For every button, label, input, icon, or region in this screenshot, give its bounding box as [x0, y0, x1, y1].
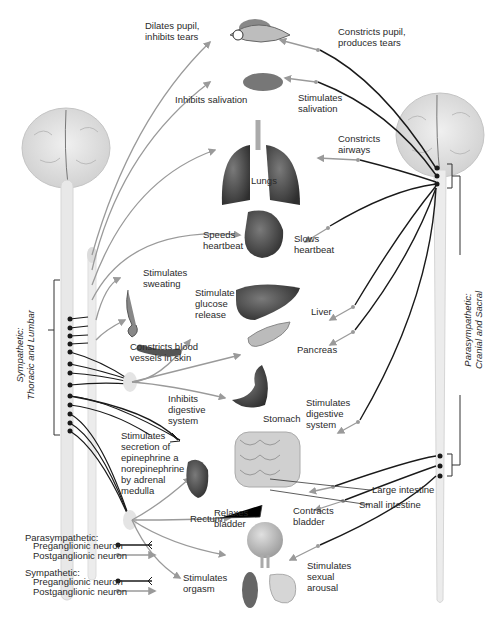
bladder-icon	[247, 522, 283, 558]
organ-label-large-intestine: Large intestine	[372, 484, 434, 495]
label-constricts-airways: Constricts airways	[338, 133, 380, 155]
organ-label-small-intestine: Small intestine	[359, 499, 421, 510]
organ-label-liver: Liver	[311, 306, 332, 317]
male-genitalia-icon	[270, 574, 296, 603]
label-dilates-pupil: Dilates pupil, inhibits tears	[145, 20, 199, 42]
right-brain-icon	[396, 93, 484, 177]
female-genitalia-icon	[242, 572, 258, 608]
stomach-icon	[232, 365, 268, 408]
eye-icon	[230, 19, 290, 42]
lungs-icon	[222, 120, 300, 205]
right-spinal-cord	[434, 170, 446, 603]
label-slows-heartbeat: Slows heartbeat	[294, 233, 334, 255]
ans-diagram: Sympathetic: Thoracic and Lumbar Parasym…	[0, 0, 504, 618]
label-stimulates-orgasm: Stimulates orgasm	[183, 572, 227, 594]
label-stimulates-salivation: Stimulates salivation	[298, 92, 342, 114]
label-sexual-arousal: Stimulates sexual arousal	[307, 560, 351, 593]
legend-para-postganglionic: Postganglionic neuron	[33, 550, 127, 561]
parasympathetic-division-label: Parasympathetic: Cranial and Sacral	[462, 265, 484, 395]
organ-label-lungs: Lungs	[251, 175, 277, 186]
legend-symp-postganglionic: Postganglionic neuron	[33, 586, 127, 597]
diagram-graphics	[0, 0, 504, 618]
label-stimulates-digestive: Stimulates digestive system	[306, 397, 350, 430]
organ-label-stomach: Stomach	[263, 413, 301, 424]
sweat-gland-icon	[127, 290, 138, 337]
label-adrenal-secretion: Stimulates secretion of epinephrine a no…	[121, 430, 184, 496]
label-constricts-vessels: Constricts blood vessels in skin	[130, 341, 198, 363]
label-glucose-release: Stimulate glucose release	[195, 287, 235, 320]
kidney-adrenal-icon	[186, 460, 208, 498]
label-constricts-pupil: Constricts pupil, produces tears	[338, 26, 406, 48]
label-stimulates-sweating: Stimulates sweating	[143, 267, 187, 289]
liver-icon	[236, 284, 300, 320]
organ-label-rectum: Rectum	[190, 513, 223, 524]
label-inhibits-salivation: Inhibits salivation	[175, 94, 247, 105]
pancreas-icon	[248, 322, 290, 346]
label-speeds-heartbeat: Speeds heartbeat	[203, 229, 243, 251]
organ-label-pancreas: Pancreas	[297, 344, 337, 355]
label-contracts-bladder: Contracts bladder	[293, 505, 334, 527]
label-inhibits-digestive: Inhibits digestive system	[168, 393, 206, 426]
left-brain-icon	[22, 108, 110, 188]
sympathetic-division-label: Sympathetic: Thoracic and Lumbar	[14, 290, 36, 420]
heart-icon	[245, 210, 284, 258]
salivary-gland-icon	[243, 73, 283, 91]
